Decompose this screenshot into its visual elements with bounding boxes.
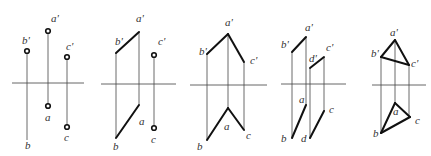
point-label: a'	[305, 21, 314, 33]
line-segment	[228, 34, 244, 62]
point-label: b	[281, 132, 287, 144]
projection-diagram: b'a'c'abcb'a'c'abcb'a'c'abcb'a'd'c'abdca…	[0, 0, 431, 156]
panel-5: a'b'c'acb	[371, 26, 426, 139]
point-label: a'	[390, 26, 399, 38]
line-segment	[207, 34, 228, 54]
panel-3: b'a'c'abc	[190, 16, 267, 152]
point-label: c'	[326, 41, 334, 53]
point-label: d'	[309, 52, 318, 64]
panel-4: b'a'd'c'abdc	[281, 21, 346, 144]
point-label: a	[45, 111, 51, 123]
point-label: d	[301, 132, 307, 144]
point-marker	[25, 49, 30, 54]
point-label: a	[224, 120, 230, 132]
point-marker	[65, 125, 70, 130]
point-marker	[152, 126, 157, 131]
line-segment	[228, 108, 244, 130]
point-label: b	[113, 140, 119, 152]
point-label: c	[151, 133, 156, 145]
point-label: a	[139, 115, 145, 127]
point-label: b	[197, 140, 203, 152]
point-marker	[46, 104, 51, 109]
point-label: b'	[371, 47, 380, 59]
point-label: c	[64, 131, 69, 143]
point-label: a'	[136, 12, 145, 24]
point-label: c'	[158, 35, 166, 47]
point-label: a	[299, 93, 305, 105]
point-label: b'	[199, 45, 208, 57]
point-label: c'	[66, 40, 74, 52]
point-label: c	[246, 129, 251, 141]
line-segment	[310, 111, 324, 138]
point-marker	[152, 53, 157, 58]
point-label: a	[393, 105, 399, 117]
point-label: b	[25, 139, 31, 151]
point-label: b	[373, 127, 379, 139]
point-label: a'	[225, 16, 234, 28]
panel-2: b'a'c'abc	[101, 12, 176, 152]
point-label: c'	[250, 54, 258, 66]
point-label: b'	[22, 34, 31, 46]
panel-1: b'a'c'abc	[12, 12, 84, 151]
line-segment	[116, 105, 139, 138]
point-marker	[65, 55, 70, 60]
line-segment	[292, 37, 306, 52]
point-marker	[46, 29, 51, 34]
point-label: c	[415, 114, 420, 126]
point-label: c	[329, 103, 334, 115]
point-label: c'	[411, 57, 419, 69]
point-label: a'	[51, 12, 60, 24]
line-segment	[381, 40, 395, 57]
point-label: b'	[281, 38, 290, 50]
point-label: b'	[115, 35, 124, 47]
